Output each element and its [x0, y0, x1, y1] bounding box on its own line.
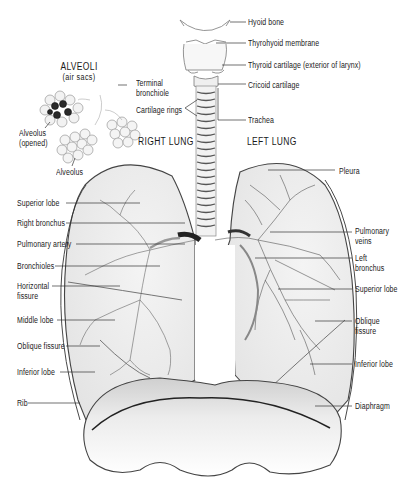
label-pulmonary-veins-line2: veins — [355, 236, 389, 246]
alveoli-title: ALVEOLI — [58, 62, 101, 72]
alveoli-drawing — [40, 91, 140, 163]
label-horizontal-fissure: Horizontal fissure — [17, 281, 49, 301]
label-horizontal-fissure-line1: Horizontal — [17, 281, 49, 291]
label-pleura: Pleura — [339, 166, 360, 176]
label-left-oblique-fissure: Oblique fissure — [355, 316, 380, 336]
label-diaphragm: Diaphragm — [355, 401, 390, 411]
right-lung-heading: RIGHT LUNG — [138, 137, 194, 147]
label-left-oblique-fissure-line2: fissure — [355, 326, 380, 336]
diaphragm-drawing — [84, 378, 342, 476]
label-left-oblique-fissure-line1: Oblique — [355, 316, 380, 326]
left-lung-drawing — [215, 164, 354, 418]
label-pulmonary-veins: Pulmonary veins — [355, 226, 389, 246]
left-lung-heading: LEFT LUNG — [247, 137, 297, 147]
label-bronchioles: Bronchioles — [17, 261, 54, 271]
label-right-inferior-lobe: Inferior lobe — [17, 367, 55, 377]
label-alveolus: Alveolus — [56, 167, 83, 177]
label-right-oblique-fissure: Oblique fissure — [17, 341, 65, 351]
lung-anatomy-diagram: ALVEOLI (air sacs) RIGHT LUNG LEFT LUNG … — [0, 0, 411, 483]
label-left-bronchus: Left bronchus — [355, 253, 384, 273]
label-terminal-bronchiole-line2: bronchiole — [136, 88, 169, 98]
label-left-superior-lobe: Superior lobe — [355, 284, 398, 294]
label-horizontal-fissure-line2: fissure — [17, 291, 49, 301]
label-thyroid-cartilage: Thyroid cartilage (exterior of larynx) — [248, 60, 361, 70]
label-hyoid-bone: Hyoid bone — [248, 17, 284, 27]
label-right-superior-lobe: Superior lobe — [17, 198, 60, 208]
alveoli-subtitle: (air sacs) — [58, 72, 101, 82]
label-thyrohyoid-membrane: Thyrohyoid membrane — [248, 38, 319, 48]
trachea-drawing — [196, 86, 216, 236]
label-rib: Rib — [17, 398, 28, 408]
label-alveolus-opened-line1: Alveolus — [19, 128, 48, 138]
label-pulmonary-artery: Pulmonary artery — [17, 239, 71, 249]
label-terminal-bronchiole-line1: Terminal — [136, 78, 169, 88]
larynx-drawing — [180, 20, 230, 88]
label-cricoid-cartilage: Cricoid cartilage — [248, 80, 299, 90]
label-right-bronchus: Right bronchus — [17, 218, 65, 228]
label-alveolus-opened-line2: (opened) — [19, 138, 48, 148]
label-left-bronchus-line2: bronchus — [355, 263, 384, 273]
label-pulmonary-veins-line1: Pulmonary — [355, 226, 389, 236]
label-terminal-bronchiole: Terminal bronchiole — [136, 78, 169, 98]
label-cartilage-rings: Cartilage rings — [136, 105, 182, 115]
label-middle-lobe: Middle lobe — [17, 315, 54, 325]
label-left-inferior-lobe: Inferior lobe — [355, 359, 393, 369]
alveoli-heading: ALVEOLI (air sacs) — [58, 62, 101, 82]
label-alveolus-opened: Alveolus (opened) — [19, 128, 48, 148]
label-trachea: Trachea — [248, 115, 274, 125]
label-left-bronchus-line1: Left — [355, 253, 384, 263]
